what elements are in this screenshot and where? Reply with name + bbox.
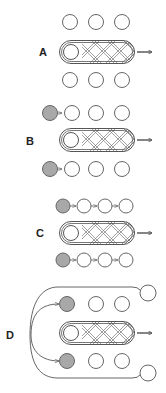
panel-c: C xyxy=(36,199,152,267)
diagram: A B C xyxy=(0,0,166,393)
panel-b: B xyxy=(26,106,152,177)
grey-circle xyxy=(43,106,58,121)
a-top-row xyxy=(63,15,130,30)
capsule-a xyxy=(60,40,153,64)
capsule-b xyxy=(60,128,153,152)
panel-label-c: C xyxy=(36,227,44,239)
panel-d: D xyxy=(6,285,156,381)
grey-circle xyxy=(43,162,58,177)
a-bottom-row xyxy=(63,73,130,88)
panel-label-b: B xyxy=(26,135,34,147)
capsule-d xyxy=(60,321,153,345)
panel-label-d: D xyxy=(6,329,14,341)
panel-a: A xyxy=(39,15,152,88)
capsule-c xyxy=(60,221,153,245)
panel-label-a: A xyxy=(39,46,47,58)
